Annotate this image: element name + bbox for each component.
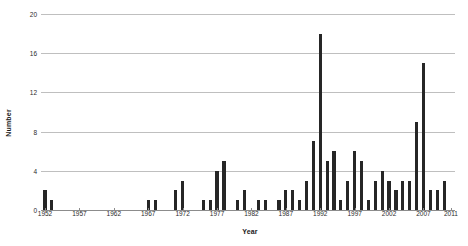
bar bbox=[291, 190, 294, 210]
bar bbox=[367, 200, 370, 210]
plot-area: 048121620 bbox=[41, 14, 455, 210]
x-tick-label-2002: 2002 bbox=[382, 210, 396, 217]
x-tick-mark-1997 bbox=[355, 208, 356, 210]
x-tick-mark-1952 bbox=[45, 208, 46, 210]
bar bbox=[332, 151, 335, 210]
x-tick-mark-2002 bbox=[389, 208, 390, 210]
y-tick-label-4: 4 bbox=[33, 167, 37, 174]
y-axis-title: Number bbox=[0, 0, 16, 246]
bar bbox=[387, 181, 390, 210]
x-tick-mark-1967 bbox=[148, 208, 149, 210]
bar bbox=[236, 200, 239, 210]
bar bbox=[422, 63, 425, 210]
bar bbox=[202, 200, 205, 210]
x-tick-label-1962: 1962 bbox=[107, 210, 121, 217]
x-tick-mark-2007 bbox=[423, 208, 424, 210]
bar bbox=[374, 181, 377, 210]
x-tick-label-2011: 2011 bbox=[444, 210, 458, 217]
x-tick-label-1967: 1967 bbox=[141, 210, 155, 217]
x-tick-mark-1957 bbox=[79, 208, 80, 210]
bar-series bbox=[41, 14, 455, 210]
y-tick-label-8: 8 bbox=[33, 128, 37, 135]
bar bbox=[360, 161, 363, 210]
x-tick-label-1997: 1997 bbox=[347, 210, 361, 217]
x-tick-mark-2011 bbox=[451, 208, 452, 210]
bar bbox=[346, 181, 349, 210]
bar bbox=[154, 200, 157, 210]
bar bbox=[408, 181, 411, 210]
x-tick-label-1982: 1982 bbox=[244, 210, 258, 217]
bar bbox=[257, 200, 260, 210]
bar bbox=[394, 190, 397, 210]
x-tick-label-1977: 1977 bbox=[210, 210, 224, 217]
bar bbox=[222, 161, 225, 210]
bar bbox=[436, 190, 439, 210]
bar bbox=[209, 200, 212, 210]
bar bbox=[50, 200, 53, 210]
y-tick-label-12: 12 bbox=[30, 89, 37, 96]
x-tick-mark-1987 bbox=[286, 208, 287, 210]
y-tick-label-0: 0 bbox=[33, 207, 37, 214]
x-tick-label-1957: 1957 bbox=[72, 210, 86, 217]
bar bbox=[319, 34, 322, 210]
y-tick-label-16: 16 bbox=[30, 50, 37, 57]
bar bbox=[381, 171, 384, 210]
x-tick-mark-1992 bbox=[320, 208, 321, 210]
x-axis-ticks: 1952195719621967197219771982198719921997… bbox=[41, 210, 455, 222]
bar bbox=[305, 181, 308, 210]
bar bbox=[215, 171, 218, 210]
bar-chart: Number 048121620 19521957196219671972197… bbox=[0, 0, 468, 246]
bar bbox=[429, 190, 432, 210]
x-tick-mark-1972 bbox=[183, 208, 184, 210]
bar bbox=[401, 181, 404, 210]
x-axis-title: Year bbox=[40, 228, 460, 235]
bar bbox=[181, 181, 184, 210]
x-tick-mark-1962 bbox=[114, 208, 115, 210]
bar bbox=[353, 151, 356, 210]
bar bbox=[298, 200, 301, 210]
bar bbox=[174, 190, 177, 210]
bar bbox=[415, 122, 418, 210]
bar bbox=[277, 200, 280, 210]
bar bbox=[339, 200, 342, 210]
x-tick-mark-1977 bbox=[217, 208, 218, 210]
bar bbox=[326, 161, 329, 210]
bar bbox=[312, 141, 315, 210]
x-tick-label-1987: 1987 bbox=[279, 210, 293, 217]
bar bbox=[443, 181, 446, 210]
x-tick-label-1972: 1972 bbox=[175, 210, 189, 217]
bar bbox=[264, 200, 267, 210]
x-tick-label-1992: 1992 bbox=[313, 210, 327, 217]
x-tick-mark-1982 bbox=[251, 208, 252, 210]
y-tick-label-20: 20 bbox=[30, 11, 37, 18]
bar bbox=[243, 190, 246, 210]
x-tick-label-2007: 2007 bbox=[416, 210, 430, 217]
x-tick-label-1952: 1952 bbox=[38, 210, 52, 217]
